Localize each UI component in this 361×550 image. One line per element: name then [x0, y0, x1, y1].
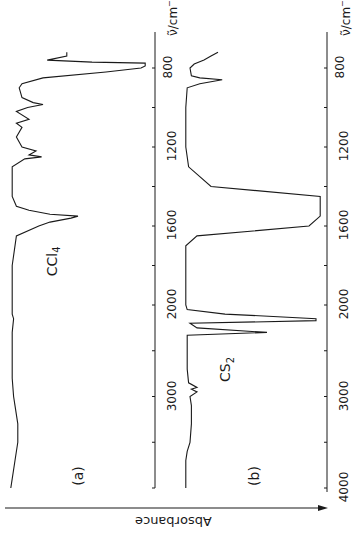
compound-sub: 4 [51, 246, 62, 252]
axis-unit-text: ν̃/cm [339, 7, 353, 36]
tick-label: 3000 [165, 380, 179, 411]
axis-unit-label-b: ν̃/cm−1 [338, 0, 353, 36]
tick-label: 3000 [337, 380, 351, 411]
axis-unit-sup: −1 [165, 0, 174, 7]
axis-unit-sup: −1 [338, 0, 347, 7]
compound-text: CS [217, 363, 233, 382]
panel-label-a: (a) [70, 466, 86, 486]
compound-text: CCl [44, 253, 60, 276]
wavenumber-axis-a [152, 32, 155, 488]
tick-label: 1200 [165, 131, 179, 162]
axis-unit-label-a: ν̃/cm−1 [165, 0, 180, 36]
tick-label: 800 [161, 56, 175, 79]
wavenumber-axis-b [324, 32, 327, 492]
tick-label: 4000 [337, 472, 351, 503]
spectrum-cs2-trace [186, 52, 320, 488]
tick-label: 1200 [337, 131, 351, 162]
spectrum-ccl4-trace [11, 52, 145, 488]
absorbance-arrow [5, 505, 328, 511]
compound-sub: 2 [225, 357, 236, 363]
panel-label-b: (b) [246, 466, 262, 486]
axis-unit-text: ν̃/cm [166, 7, 180, 36]
tick-label: 800 [333, 56, 347, 79]
compound-label-ccl4: CCl4 [44, 246, 63, 276]
tick-label: 2000 [165, 289, 179, 320]
absorbance-label: Absorbance [135, 514, 212, 529]
tick-label: 2000 [337, 289, 351, 320]
tick-label: 1600 [165, 210, 179, 241]
compound-label-cs2: CS2 [217, 357, 236, 382]
tick-label: 1600 [337, 210, 351, 241]
